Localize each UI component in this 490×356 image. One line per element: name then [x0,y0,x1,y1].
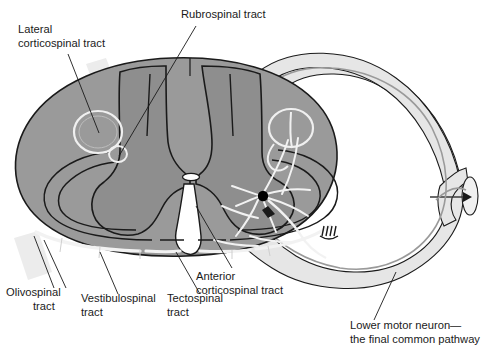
spinal-cord-figure: Lateral corticospinal tract Rubrospinal … [0,0,490,356]
white-matter [15,58,337,256]
central-canal [183,173,200,180]
motor-neuron-soma [258,191,268,201]
label-rubrospinal-tract: Rubrospinal tract [181,8,266,20]
spinal-cord-diagram: Lateral corticospinal tract Rubrospinal … [0,0,490,356]
